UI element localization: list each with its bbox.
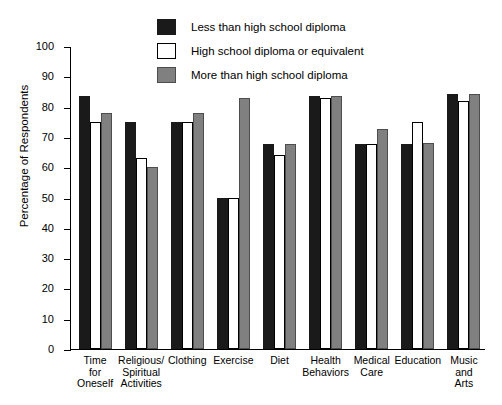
legend-item-label: Less than high school diploma <box>191 20 346 34</box>
bar <box>90 122 101 349</box>
bar-chart: Less than high school diplomaHigh school… <box>0 0 502 405</box>
bar <box>274 155 285 349</box>
bar-group <box>79 46 112 349</box>
bar <box>228 198 239 350</box>
bar <box>193 113 204 349</box>
y-axis-tick <box>64 289 71 290</box>
y-axis-tick <box>64 108 71 109</box>
bar <box>171 122 182 349</box>
bar <box>147 167 158 349</box>
y-axis-tick-label: 20 <box>20 283 54 294</box>
bar <box>320 98 331 349</box>
bar <box>217 198 228 350</box>
y-axis-tick <box>64 259 71 260</box>
bar-group <box>125 46 158 349</box>
bar <box>125 122 136 349</box>
bar-group <box>217 46 250 349</box>
bar <box>263 144 274 349</box>
x-axis-category-label: Music and Arts <box>424 355 502 390</box>
y-axis-tick <box>64 138 71 139</box>
y-axis-tick <box>64 199 71 200</box>
bar <box>401 144 412 349</box>
bar <box>182 122 193 349</box>
y-axis-tick <box>64 320 71 321</box>
legend-item: Less than high school diploma <box>157 16 457 38</box>
bar-group <box>355 46 388 349</box>
bar-group <box>447 46 480 349</box>
y-axis-tick-label: 0 <box>20 344 54 355</box>
bar <box>377 129 388 349</box>
x-axis-category-labels: Time for OneselfReligious/ Spiritual Act… <box>70 355 485 403</box>
bar-group <box>171 46 204 349</box>
y-axis-tick-labels: 1009080706050403020100 <box>28 47 62 350</box>
x-axis-line <box>70 349 485 350</box>
bar <box>136 158 147 349</box>
bar <box>423 143 434 349</box>
bar <box>101 113 112 349</box>
y-axis-tick <box>64 47 71 48</box>
bar <box>458 101 469 349</box>
bar <box>447 94 458 349</box>
y-axis-tick <box>64 77 71 78</box>
bar <box>366 144 377 349</box>
bar <box>239 98 250 349</box>
bar <box>412 122 423 349</box>
bar <box>79 96 90 349</box>
y-axis-tick <box>64 350 71 351</box>
plot-area <box>70 47 485 350</box>
bar <box>331 96 342 349</box>
bar <box>309 96 320 349</box>
bar-group <box>401 46 434 349</box>
bar <box>469 94 480 349</box>
bar <box>285 144 296 349</box>
black-swatch <box>157 19 176 35</box>
y-axis-title: Percentage of Respondents <box>18 46 30 266</box>
y-axis-tick-label: 10 <box>20 314 54 325</box>
bar-group <box>309 46 342 349</box>
bar <box>355 144 366 349</box>
y-axis-tick <box>64 168 71 169</box>
y-axis-tick <box>64 229 71 230</box>
bar-group <box>263 46 296 349</box>
